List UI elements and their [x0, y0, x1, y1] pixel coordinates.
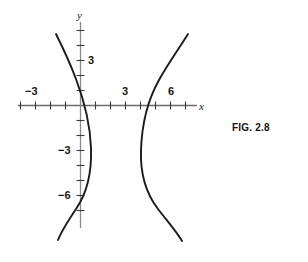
x-tick-label-3: 3 — [122, 86, 128, 97]
right-branch-curve — [141, 34, 188, 241]
y-tick-label-neg3: −3 — [58, 145, 71, 156]
figure-container: y x −3 3 6 3 −3 −6 FIG. 2.8 — [0, 0, 308, 262]
y-tick-label-3: 3 — [88, 55, 94, 66]
y-axis-label: y — [77, 10, 82, 21]
x-axis-label: x — [199, 101, 204, 112]
y-tick-label-neg6: −6 — [58, 190, 71, 201]
left-branch-curve — [56, 34, 91, 240]
x-tick-label-6: 6 — [168, 86, 174, 97]
x-tick-label-neg3: −3 — [25, 86, 38, 97]
figure-caption: FIG. 2.8 — [232, 122, 270, 133]
